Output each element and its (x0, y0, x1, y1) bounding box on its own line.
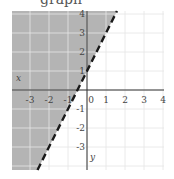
x-tick-label: -1 (64, 95, 73, 105)
y-tick-label: 2 (79, 47, 85, 57)
y-tick-label: -1 (76, 104, 85, 114)
y-tick-label: 4 (79, 9, 85, 19)
x-tick-label: -2 (45, 95, 54, 105)
x-tick-label: -3 (26, 95, 35, 105)
y-tick-label: 3 (79, 28, 85, 38)
y-tick-label: -3 (76, 142, 85, 152)
x-tick-label: 4 (160, 95, 166, 105)
x-tick-label: 2 (122, 95, 128, 105)
inequality-graph: -3-2-1012344321-1-2-3xy (0, 0, 174, 179)
y-axis-label: y (89, 152, 96, 162)
x-tick-label: 3 (141, 95, 147, 105)
x-tick-label: 1 (103, 95, 109, 105)
x-axis-label: x (16, 73, 21, 83)
y-tick-label: 1 (79, 66, 85, 76)
y-tick-label: -2 (76, 123, 85, 133)
x-tick-label: 0 (88, 95, 94, 105)
